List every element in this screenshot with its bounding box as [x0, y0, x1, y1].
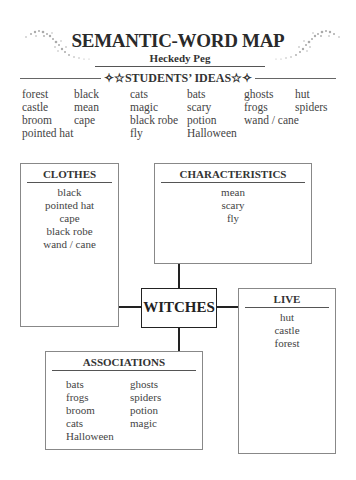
list-item: magic: [130, 417, 161, 430]
idea-word: wand / cane: [244, 114, 299, 126]
characteristics-items: mean scary fly: [155, 186, 311, 225]
list-item: castle: [239, 324, 335, 337]
list-item: fly: [155, 212, 311, 225]
idea-word: pointed hat: [22, 127, 73, 139]
idea-word: cape: [74, 114, 95, 126]
list-item: hut: [239, 311, 335, 324]
list-item: Halloween: [66, 430, 114, 443]
idea-word: black: [74, 88, 99, 100]
center-concept-box: WITCHES: [141, 288, 217, 328]
list-item: forest: [239, 337, 335, 350]
students-ideas-divider: ✧☆STUDENTS’ IDEAS☆✧: [20, 71, 336, 85]
associations-col1: bats frogs broom cats Halloween: [66, 378, 114, 443]
idea-word: fly: [130, 127, 143, 139]
book-title: Heckedy Peg: [95, 52, 265, 67]
idea-word: potion: [187, 114, 216, 126]
idea-word: cats: [130, 88, 148, 100]
clothes-box: CLOTHES black pointed hat cape black rob…: [20, 163, 119, 327]
idea-word: black robe: [130, 114, 178, 126]
idea-word: scary: [187, 101, 211, 113]
list-item: mean: [155, 186, 311, 199]
associations-col2: ghosts spiders potion magic: [130, 378, 161, 430]
characteristics-box: CHARACTERISTICS mean scary fly: [154, 163, 312, 264]
idea-word: castle: [22, 101, 48, 113]
list-item: potion: [130, 404, 161, 417]
characteristics-heading: CHARACTERISTICS: [161, 168, 305, 183]
connector-line: [178, 263, 180, 288]
idea-word: mean: [74, 101, 99, 113]
list-item: ghosts: [130, 378, 161, 391]
live-items: hut castle forest: [239, 311, 335, 350]
list-item: frogs: [66, 391, 114, 404]
idea-word: broom: [22, 114, 52, 126]
list-item: pointed hat: [21, 199, 118, 212]
idea-word: Halloween: [187, 127, 237, 139]
list-item: spiders: [130, 391, 161, 404]
live-heading: LIVE: [245, 293, 329, 308]
list-item: broom: [66, 404, 114, 417]
list-item: scary: [155, 199, 311, 212]
idea-word: bats: [187, 88, 206, 100]
associations-heading: ASSOCIATIONS: [52, 356, 196, 371]
idea-word: forest: [22, 88, 48, 100]
idea-word: magic: [130, 101, 158, 113]
students-ideas-heading: ✧☆STUDENTS’ IDEAS☆✧: [101, 71, 255, 85]
associations-box: ASSOCIATIONS bats frogs broom cats Hallo…: [45, 351, 203, 450]
list-item: black: [21, 186, 118, 199]
idea-word: frogs: [244, 101, 268, 113]
live-box: LIVE hut castle forest: [238, 288, 336, 454]
connector-line: [178, 327, 180, 352]
idea-word: spiders: [295, 101, 328, 113]
connector-line: [216, 306, 239, 308]
clothes-items: black pointed hat cape black robe wand /…: [21, 186, 118, 251]
connector-line: [118, 306, 142, 308]
list-item: bats: [66, 378, 114, 391]
list-item: black robe: [21, 225, 118, 238]
idea-word: ghosts: [244, 88, 273, 100]
clothes-heading: CLOTHES: [27, 168, 112, 183]
list-item: cape: [21, 212, 118, 225]
idea-word: hut: [295, 88, 310, 100]
list-item: cats: [66, 417, 114, 430]
list-item: wand / cane: [21, 238, 118, 251]
page-title: SEMANTIC-WORD MAP: [0, 30, 356, 52]
